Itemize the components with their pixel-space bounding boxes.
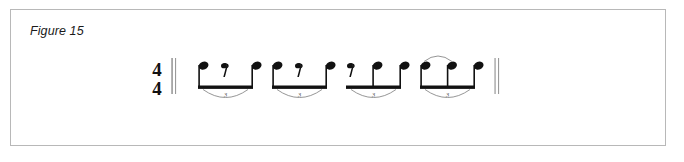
figure-label: Figure 15 [30, 24, 84, 38]
figure-frame: Figure 15 [10, 9, 666, 146]
